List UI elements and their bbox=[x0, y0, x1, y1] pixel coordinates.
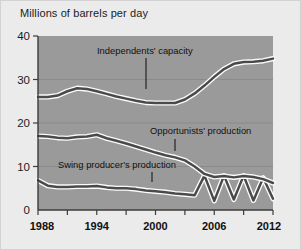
chart-canvas: 403020100 19881994200020062012 Independe… bbox=[0, 0, 301, 250]
annotation-swing-producer-production: Swing producer's production bbox=[58, 159, 176, 170]
y-tick-label-20: 20 bbox=[17, 117, 30, 129]
annotation-opportunists-production: Opportunists' production bbox=[150, 125, 251, 136]
x-tick-label-2012: 2012 bbox=[257, 220, 281, 232]
y-tick-label-30: 30 bbox=[17, 74, 30, 86]
y-axis-tick-labels: 403020100 bbox=[17, 30, 30, 216]
y-tick-label-0: 0 bbox=[24, 204, 30, 216]
y-tick-label-10: 10 bbox=[17, 161, 30, 173]
annotation-independents-capacity: Independents' capacity bbox=[97, 45, 193, 56]
x-axis-tick-labels: 19881994200020062012 bbox=[30, 220, 281, 232]
line-chart-svg: 403020100 19881994200020062012 Independe… bbox=[0, 0, 301, 250]
chart-page: Millions of barrels per day 403020100 19… bbox=[0, 0, 301, 250]
x-tick-label-1994: 1994 bbox=[85, 220, 110, 232]
y-tick-label-40: 40 bbox=[17, 30, 30, 42]
x-tick-label-1988: 1988 bbox=[30, 220, 54, 232]
x-tick-label-2006: 2006 bbox=[202, 220, 226, 232]
x-tick-label-2000: 2000 bbox=[143, 220, 167, 232]
